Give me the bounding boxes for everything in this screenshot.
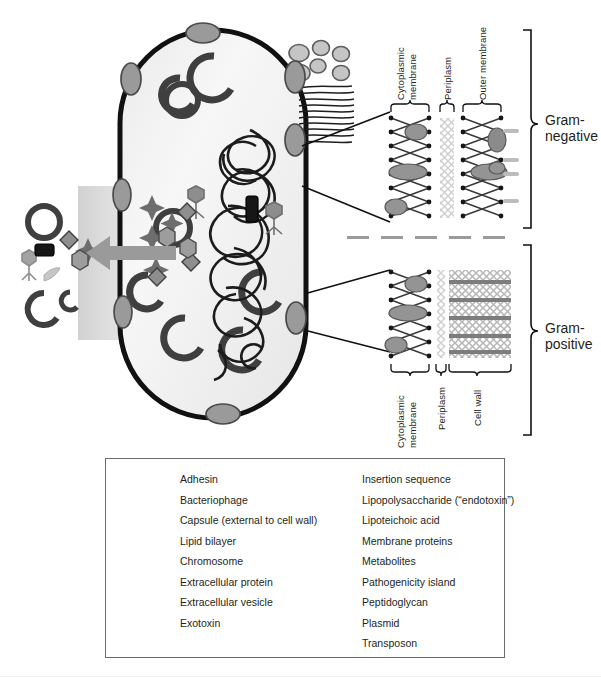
gram-negative-label-line1: Gram-	[545, 112, 598, 128]
legend-item: Extracellular vesicle	[146, 592, 317, 613]
adhesin	[286, 302, 306, 334]
legend-item-label: Plasmid	[362, 617, 399, 629]
adhesin	[186, 23, 220, 43]
extracellular-vesicle	[333, 47, 350, 62]
exotoxin	[180, 238, 196, 258]
legend-item	[146, 633, 317, 654]
legend-item: Membrane proteins	[328, 531, 514, 552]
legend-item-label: Metabolites	[362, 555, 416, 567]
pathogenicity-island	[35, 244, 54, 256]
extracellular-vesicle	[333, 66, 350, 81]
legend-item-label: Extracellular protein	[180, 576, 273, 588]
legend-item-label: Capsule (external to cell wall)	[180, 514, 317, 526]
membrane-protein	[385, 337, 407, 353]
plasmid	[28, 206, 60, 238]
gn-layer-label-outer-membrane: Outer membrane	[478, 23, 489, 100]
extracellular-vesicle	[289, 45, 309, 62]
adhesin	[114, 296, 132, 328]
pathogenicity-island	[246, 196, 258, 222]
secreted-content	[28, 206, 77, 325]
gram-positive-label-line2: positive	[545, 336, 592, 352]
legend-left-column: AdhesinBacteriophageCapsule (external to…	[146, 469, 317, 654]
extracellular-protein	[60, 231, 78, 249]
transposon	[61, 292, 77, 310]
legend-item-label: Exotoxin	[180, 617, 220, 629]
gn-outer-membrane	[461, 116, 519, 219]
leader-lines-gram-positive	[304, 270, 390, 352]
legend-item: Lipoteichoic acid	[328, 510, 514, 531]
legend-item: Chromosome	[146, 551, 317, 572]
adhesin	[113, 179, 131, 211]
legend-item: Extracellular protein	[146, 572, 317, 593]
legend-item: Peptidoglycan	[328, 592, 514, 613]
membrane-protein	[389, 305, 427, 321]
legend-item: Bacteriophage	[146, 490, 317, 511]
gram-negative-brace	[523, 30, 538, 228]
legend-item-label: Adhesin	[180, 473, 218, 485]
gp-layer-label-cytoplasmic-membrane-line2: membrane	[408, 380, 419, 448]
transposon	[28, 293, 57, 325]
membrane-protein	[389, 164, 427, 180]
legend-item-label: Pathogenicity island	[362, 576, 455, 588]
legend-item-label: Lipid bilayer	[180, 535, 236, 547]
membrane-protein	[405, 276, 427, 292]
gn-layer-label-cytoplasmic-membrane-line2: membrane	[408, 32, 419, 100]
gn-layer-label-cytoplasmic-membrane-line1: Cytoplasmic	[396, 32, 407, 100]
membrane-protein	[489, 162, 505, 174]
gn-layer-label-periplasm: Periplasm	[443, 52, 454, 100]
legend-item-label: Insertion sequence	[362, 473, 451, 485]
gp-layer-label-periplasm: Periplasm	[437, 380, 448, 430]
gp-braces	[391, 364, 511, 376]
legend-item-label: Bacteriophage	[180, 494, 248, 506]
legend-item-label: Peptidoglycan	[362, 596, 428, 608]
membrane-protein	[385, 199, 407, 215]
gp-cytoplasmic-membrane	[385, 270, 431, 359]
legend-item-label: Lipopolysaccharide (“endotoxin”)	[362, 494, 514, 506]
legend-item-label: Membrane proteins	[362, 535, 452, 547]
exotoxin	[159, 227, 175, 247]
membrane-protein	[405, 124, 427, 140]
gp-layer-label-cell-wall: Cell wall	[473, 380, 484, 426]
gn-braces	[391, 100, 501, 112]
bacterial-envelope-figure: Cytoplasmic membrane Periplasm Outer mem…	[0, 0, 601, 685]
gn-cytoplasmic-membrane	[385, 116, 431, 219]
legend-item-label: Transposon	[362, 637, 417, 649]
legend-item-label: Extracellular vesicle	[180, 596, 273, 608]
extracellular-vesicle	[313, 41, 330, 56]
gram-type-divider	[347, 236, 507, 239]
gram-positive-label: Gram- positive	[545, 320, 592, 352]
figure-footer-rule	[0, 676, 601, 677]
legend-item: Metabolites	[328, 551, 514, 572]
bacteriophage	[22, 250, 36, 281]
extracellular-vesicle	[310, 59, 326, 73]
legend-item: Pathogenicity island	[328, 572, 514, 593]
exotoxin	[72, 250, 88, 270]
legend-item-label: Chromosome	[180, 555, 243, 567]
gp-layer-label-cytoplasmic-membrane-line1: Cytoplasmic	[396, 380, 407, 448]
gram-positive-label-line1: Gram-	[545, 320, 592, 336]
gn-periplasm	[440, 118, 454, 218]
gram-negative-label-line2: negative	[545, 128, 598, 144]
gram-positive-brace	[523, 245, 538, 435]
adhesin	[206, 404, 240, 424]
gp-cell-wall	[449, 270, 511, 358]
legend-item: Lipid bilayer	[146, 531, 317, 552]
insertion-sequence	[44, 268, 60, 281]
adhesin	[285, 124, 305, 156]
adhesin	[285, 61, 305, 93]
legend-item: Insertion sequence	[328, 469, 514, 490]
legend-box: AdhesinBacteriophageCapsule (external to…	[105, 458, 505, 658]
gp-periplasm	[437, 270, 445, 358]
gram-negative-label: Gram- negative	[545, 112, 598, 144]
legend-item: Transposon	[328, 633, 514, 654]
legend-item: Plasmid	[328, 613, 514, 634]
adhesin	[121, 63, 141, 95]
legend-item: Capsule (external to cell wall)	[146, 510, 317, 531]
legend-right-column: Insertion sequenceLipopolysaccharide (“e…	[328, 469, 514, 654]
legend-item: Adhesin	[146, 469, 317, 490]
legend-item: Exotoxin	[146, 613, 317, 634]
legend-item: Lipopolysaccharide (“endotoxin”)	[328, 490, 514, 511]
legend-item-label: Lipoteichoic acid	[362, 514, 440, 526]
